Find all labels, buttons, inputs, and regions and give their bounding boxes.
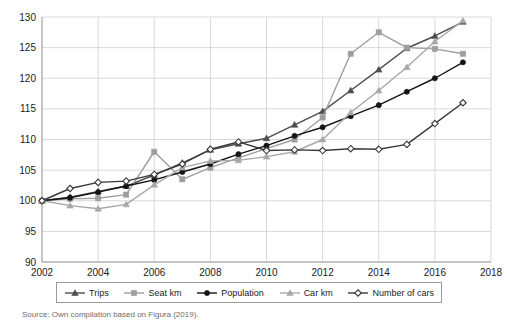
- svg-text:125: 125: [19, 42, 36, 53]
- legend-label: Trips: [89, 288, 109, 298]
- y-axis-tick-labels: 9095100105110115120125130: [19, 12, 36, 268]
- legend-item-seat-km[interactable]: Seat km: [123, 288, 181, 298]
- chart-legend: TripsSeat kmPopulationCar kmNumber of ca…: [56, 282, 442, 303]
- legend-item-car-km[interactable]: Car km: [279, 288, 333, 298]
- svg-text:2014: 2014: [368, 267, 391, 278]
- svg-text:2016: 2016: [424, 267, 447, 278]
- figure-caption: Source: Own compilation based on Figura …: [22, 310, 199, 319]
- legend-label: Population: [221, 288, 264, 298]
- svg-text:2004: 2004: [87, 267, 110, 278]
- figure-container: 9095100105110115120125130 20022004200620…: [0, 0, 508, 323]
- svg-text:105: 105: [19, 165, 36, 176]
- svg-text:2010: 2010: [255, 267, 278, 278]
- legend-label: Car km: [304, 288, 333, 298]
- svg-text:90: 90: [25, 257, 37, 268]
- legend-marker-diamond-icon: [347, 288, 369, 298]
- svg-text:100: 100: [19, 195, 36, 206]
- svg-text:2012: 2012: [312, 267, 335, 278]
- legend-item-trips[interactable]: Trips: [64, 288, 109, 298]
- svg-text:2008: 2008: [199, 267, 222, 278]
- svg-text:120: 120: [19, 73, 36, 84]
- svg-text:110: 110: [20, 134, 36, 145]
- legend-label: Number of cars: [372, 288, 434, 298]
- svg-text:2002: 2002: [31, 267, 54, 278]
- legend-item-population[interactable]: Population: [196, 288, 264, 298]
- svg-text:95: 95: [25, 226, 37, 237]
- svg-text:115: 115: [20, 103, 36, 114]
- legend-marker-square-icon: [123, 288, 145, 298]
- line-chart: 9095100105110115120125130 20022004200620…: [0, 0, 508, 323]
- svg-text:2006: 2006: [143, 267, 166, 278]
- legend-marker-circle-icon: [196, 288, 218, 298]
- x-axis-tick-labels: 200220042006200820102012201420162018: [31, 267, 503, 278]
- legend-marker-triangle-icon: [279, 288, 301, 298]
- legend-item-number-of-cars[interactable]: Number of cars: [347, 288, 434, 298]
- svg-text:130: 130: [19, 12, 36, 23]
- legend-marker-triangle-icon: [64, 288, 86, 298]
- svg-text:2018: 2018: [480, 267, 503, 278]
- legend-label: Seat km: [148, 288, 181, 298]
